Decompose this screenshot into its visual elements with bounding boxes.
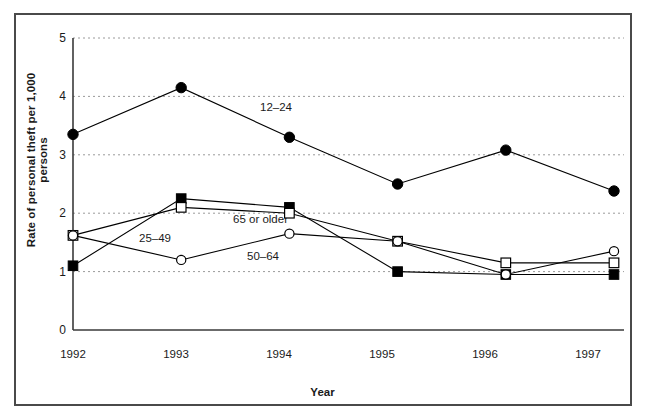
marker-12-24-1995 [392, 179, 402, 189]
marker-50-64-1996 [501, 270, 510, 279]
marker-12-24-1996 [501, 145, 511, 155]
plot-area [0, 0, 645, 420]
gridlines [73, 38, 624, 272]
marker-50-64-1992 [68, 231, 77, 240]
marker-12-24-1997 [609, 186, 619, 196]
marker-25-49-1994 [285, 208, 295, 218]
marker-25-49-1996 [501, 258, 511, 268]
marker-50-64-1993 [177, 255, 186, 264]
marker-65-or-older-1992 [68, 261, 78, 271]
marker-12-24-1994 [284, 132, 294, 142]
axis-lines [73, 38, 624, 330]
marker-65-or-older-1995 [393, 267, 403, 277]
marker-50-64-1997 [609, 247, 618, 256]
marker-25-49-1997 [609, 258, 619, 268]
marker-50-64-1995 [393, 237, 402, 246]
marker-25-49-1993 [176, 203, 186, 213]
series-lines [73, 88, 614, 275]
marker-12-24-1992 [68, 129, 78, 139]
series-line-12-24 [73, 88, 614, 191]
chart-figure: Rate of personal theft per 1,000 persons… [0, 0, 645, 420]
marker-65-or-older-1997 [609, 270, 619, 280]
series-markers [68, 82, 619, 279]
marker-50-64-1994 [285, 229, 294, 238]
marker-12-24-1993 [176, 82, 186, 92]
